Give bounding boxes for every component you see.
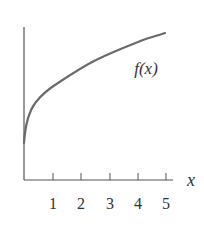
function-chart: 1 2 3 4 5 x f(x) [0, 0, 204, 229]
tick-label-5: 5 [162, 195, 170, 212]
tick-label-2: 2 [77, 195, 85, 212]
x-tick-labels: 1 2 3 4 5 [49, 195, 170, 212]
x-axis-label: x [186, 170, 195, 190]
x-ticks [53, 173, 166, 180]
tick-label-3: 3 [106, 195, 114, 212]
tick-label-1: 1 [49, 195, 57, 212]
tick-label-4: 4 [134, 195, 142, 212]
curve-label: f(x) [134, 59, 158, 78]
function-curve [24, 33, 165, 143]
